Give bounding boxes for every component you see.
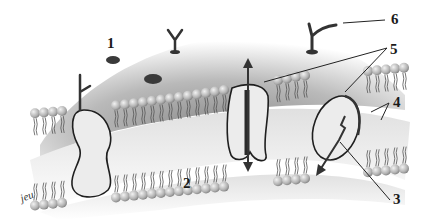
glycoprotein-small-base <box>170 50 180 54</box>
phospholipid-tail <box>34 118 35 135</box>
phospholipid-head <box>273 176 283 186</box>
label-1: 1 <box>107 36 115 51</box>
phospholipid-tail <box>279 159 280 176</box>
cell-membrane-diagram <box>0 0 423 220</box>
phospholipid-head <box>120 99 130 109</box>
phospholipid-tail <box>124 175 125 192</box>
phospholipid-head <box>201 88 211 98</box>
phospholipid-tail <box>403 73 404 90</box>
phospholipid-head <box>183 91 193 101</box>
phospholipid-head <box>111 100 121 110</box>
label-2: 2 <box>183 176 191 191</box>
phospholipid-head <box>48 107 58 117</box>
phospholipid-head <box>147 96 157 106</box>
peripheral-protein-2 <box>144 74 162 84</box>
phospholipid-tail <box>144 173 145 190</box>
phospholipid-tail <box>169 170 170 187</box>
phospholipid-tail <box>142 173 143 190</box>
phospholipid-head <box>219 85 229 95</box>
phospholipid-tail <box>52 117 53 134</box>
phospholipid-head <box>174 92 184 102</box>
phospholipid-tail <box>286 158 287 175</box>
label-4: 4 <box>393 95 401 110</box>
phospholipid-head <box>57 198 67 208</box>
phospholipid-tail <box>288 158 289 175</box>
label-5: 5 <box>390 42 398 57</box>
phospholipid-head <box>39 108 49 118</box>
phospholipid-head <box>138 97 148 107</box>
glycoprotein-6-base <box>306 50 318 55</box>
phospholipid-head <box>147 189 157 199</box>
phospholipid-head <box>372 166 382 176</box>
phospholipid-tail <box>153 172 154 189</box>
phospholipid-head <box>210 86 220 96</box>
phospholipid-head <box>192 184 202 194</box>
phospholipid-tail <box>133 174 134 191</box>
phospholipid-head <box>57 106 67 116</box>
phospholipid-tail <box>295 157 296 174</box>
phospholipid-head <box>111 192 121 202</box>
peripheral-protein-1 <box>106 56 120 64</box>
phospholipid-head <box>399 164 409 174</box>
phospholipid-head <box>219 182 229 192</box>
phospholipid-tail <box>135 174 136 191</box>
phospholipid-head <box>138 190 148 200</box>
phospholipid-head <box>120 192 130 202</box>
phospholipid-tail <box>394 74 395 91</box>
phospholipid-head <box>30 108 40 118</box>
phospholipid-head <box>363 167 373 177</box>
phospholipid-head <box>30 201 40 211</box>
phospholipid-head <box>390 165 400 175</box>
phospholipid-tail <box>162 171 163 188</box>
phospholipid-tail <box>306 157 307 174</box>
label-6: 6 <box>391 12 399 27</box>
phospholipid-head <box>192 89 202 99</box>
phospholipid-head <box>399 63 409 73</box>
phospholipid-tail <box>151 172 152 189</box>
phospholipid-head <box>48 199 58 209</box>
phospholipid-head <box>165 187 175 197</box>
phospholipid-tail <box>54 117 55 134</box>
phospholipid-tail <box>405 73 406 90</box>
phospholipid-tail <box>45 118 46 135</box>
phospholipid-head <box>156 95 166 105</box>
phospholipid-head <box>129 191 139 201</box>
leader-line-6 <box>343 20 385 23</box>
arrow-down-icon <box>243 162 253 172</box>
phospholipid-head <box>282 175 292 185</box>
phospholipid-head <box>390 64 400 74</box>
phospholipid-tail <box>160 171 161 188</box>
phospholipid-tail <box>297 157 298 174</box>
phospholipid-head <box>129 98 139 108</box>
arrow-down-left-icon <box>316 164 326 176</box>
phospholipid-tail <box>36 118 37 135</box>
label-3: 3 <box>393 192 401 207</box>
phospholipid-tail <box>304 157 305 174</box>
phospholipid-head <box>372 65 382 75</box>
phospholipid-tail <box>277 159 278 176</box>
phospholipid-head <box>201 183 211 193</box>
phospholipid-head <box>381 165 391 175</box>
phospholipid-tail <box>396 74 397 91</box>
phospholipid-head <box>39 200 49 210</box>
phospholipid-head <box>210 183 220 193</box>
phospholipid-tail <box>126 175 127 192</box>
phospholipid-head <box>300 174 310 184</box>
phospholipid-head <box>165 93 175 103</box>
phospholipid-head <box>381 64 391 74</box>
phospholipid-tail <box>43 118 44 135</box>
phospholipid-head <box>156 188 166 198</box>
phospholipid-head <box>291 174 301 184</box>
